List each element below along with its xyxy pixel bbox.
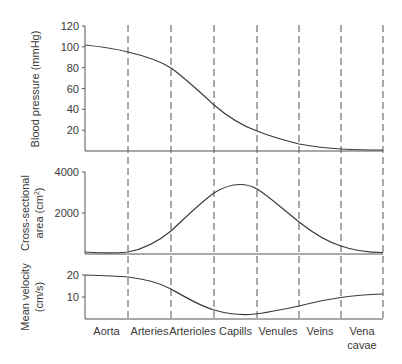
velocity-tick-20: 20 (67, 269, 79, 281)
bp-tick-20: 20 (67, 124, 79, 136)
velocity-axis-label-line2: (cm/s) (33, 282, 45, 313)
mean-velocity-panel: 20 10 Mean velocity (cm/s) (19, 263, 383, 331)
bp-tick-40: 40 (67, 103, 79, 115)
area-axis-label-line2: area (cm2) (33, 188, 45, 239)
category-vena-cavae-line2: cavae (347, 339, 376, 351)
category-arterioles: Arterioles (169, 325, 216, 337)
category-vena-cavae-line1: Vena (349, 325, 375, 337)
bp-tick-80: 80 (67, 62, 79, 74)
bp-tick-100: 100 (61, 41, 79, 53)
bp-tick-120: 120 (61, 20, 79, 32)
cross-sectional-area-panel: 4000 2000 Cross-sectional area (cm2) (19, 166, 383, 254)
category-capills: Capills (219, 325, 253, 337)
category-arteries: Arteries (131, 325, 169, 337)
category-veins: Veins (307, 325, 334, 337)
area-axis-label-line1: Cross-sectional (19, 175, 31, 251)
category-aorta: Aorta (93, 325, 120, 337)
velocity-tick-10: 10 (67, 291, 79, 303)
category-venules: Venules (258, 325, 298, 337)
velocity-axis-label-line1: Mean velocity (19, 263, 31, 331)
bp-tick-60: 60 (67, 83, 79, 95)
area-tick-2000: 2000 (55, 207, 79, 219)
category-labels: Aorta Arteries Arterioles Capills Venule… (93, 325, 376, 351)
circulation-chart: 120 100 80 60 40 20 Blood pressure (mmHg… (0, 0, 402, 364)
area-tick-4000: 4000 (55, 166, 79, 178)
blood-pressure-panel: 120 100 80 60 40 20 Blood pressure (mmHg… (29, 20, 383, 151)
segment-dividers (128, 25, 383, 319)
blood-pressure-curve (85, 45, 383, 150)
mean-velocity-curve (85, 275, 383, 315)
bp-axis-label: Blood pressure (mmHg) (29, 31, 41, 148)
cross-sectional-area-curve (85, 185, 383, 253)
